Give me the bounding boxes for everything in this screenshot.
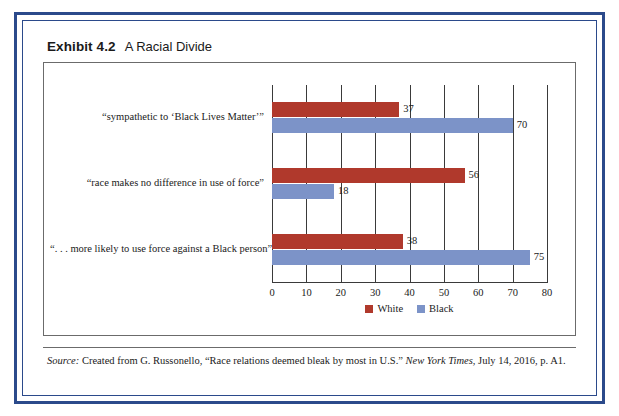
x-tick-label: 40: [404, 287, 415, 298]
exhibit-content: Exhibit 4.2 A Racial Divide 010203040506…: [43, 39, 576, 379]
legend-swatch: [365, 305, 373, 313]
bar-value-label: 38: [407, 235, 418, 246]
decorative-frame-outer: Exhibit 4.2 A Racial Divide 010203040506…: [14, 12, 605, 404]
x-tick-label: 30: [370, 287, 381, 298]
bar-value-label: 56: [469, 169, 480, 180]
x-tick-label: 60: [473, 287, 484, 298]
source-publication: New York Times,: [406, 355, 476, 366]
source-note: Source: Created from G. Russonello, “Rac…: [47, 355, 576, 366]
legend-item-black: Black: [417, 303, 454, 314]
x-tick-label: 20: [336, 287, 347, 298]
chart-panel: 01020304050607080“sympathetic to ‘Black …: [43, 62, 576, 336]
source-prefix: Source:: [47, 355, 79, 366]
source-body-1: Created from G. Russonello, “Race relati…: [79, 355, 405, 366]
bar-white: [272, 102, 399, 117]
page-title: A Racial Divide: [125, 39, 212, 54]
bar-value-label: 70: [517, 119, 528, 130]
exhibit-page: Exhibit 4.2 A Racial Divide 010203040506…: [0, 0, 619, 416]
chart-category-group: “sympathetic to ‘Black Lives Matter’”377…: [272, 85, 547, 151]
x-tick-label: 80: [542, 287, 553, 298]
bar-black: [272, 118, 513, 133]
bar-white: [272, 234, 403, 249]
x-tick-label: 50: [439, 287, 450, 298]
x-tick-label: 70: [507, 287, 518, 298]
source-body-2: July 14, 2016, p. A1.: [475, 355, 565, 366]
legend-label: Black: [429, 303, 454, 314]
legend-label: White: [377, 303, 403, 314]
legend-item-white: White: [365, 303, 403, 314]
source-divider: [43, 347, 576, 348]
bar-value-label: 37: [403, 103, 414, 114]
category-label: “. . . more likely to use force against …: [50, 243, 272, 254]
category-label: “sympathetic to ‘Black Lives Matter’”: [50, 111, 272, 122]
exhibit-number: Exhibit 4.2: [47, 39, 116, 54]
category-label: “race makes no difference in use of forc…: [50, 177, 272, 188]
bar-value-label: 75: [534, 251, 545, 262]
bar-black: [272, 250, 530, 265]
chart-category-group: “. . . more likely to use force against …: [272, 217, 547, 283]
bar-black: [272, 184, 334, 199]
chart-category-group: “race makes no difference in use of forc…: [272, 151, 547, 217]
legend-swatch: [417, 305, 425, 313]
gridline: [547, 85, 548, 283]
bar-white: [272, 168, 465, 183]
chart-legend: WhiteBlack: [272, 303, 547, 314]
x-tick-label: 0: [269, 287, 274, 298]
x-tick-label: 10: [301, 287, 312, 298]
bar-value-label: 18: [338, 185, 349, 196]
chart-plot-area: 01020304050607080“sympathetic to ‘Black …: [272, 85, 547, 283]
exhibit-title-row: Exhibit 4.2 A Racial Divide: [47, 39, 576, 54]
